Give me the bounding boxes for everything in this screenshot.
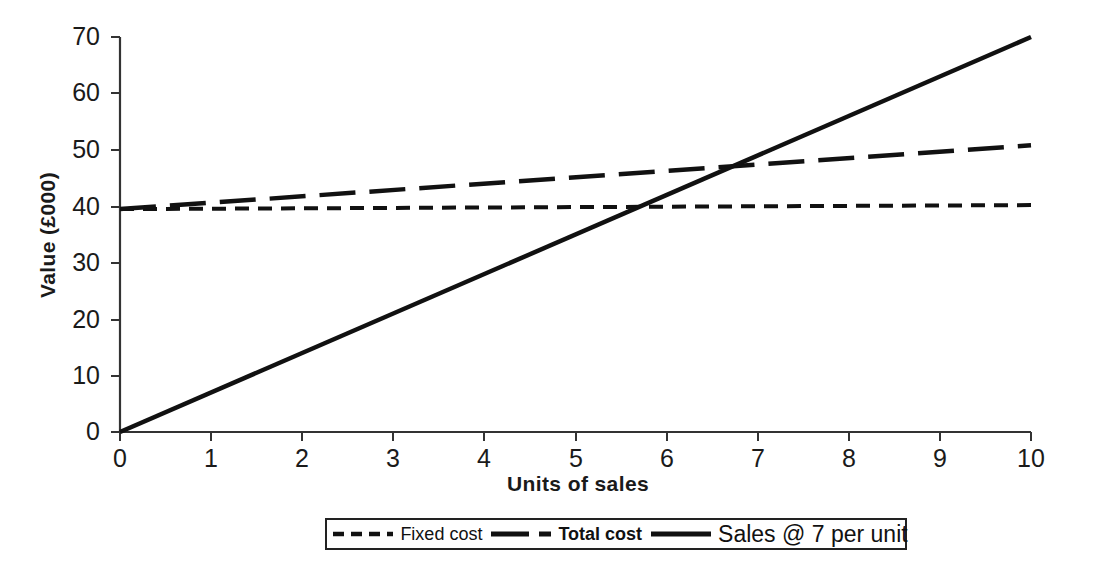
y-tick-label: 60	[72, 78, 100, 106]
y-axis-title: Value (£000)	[36, 172, 59, 298]
line-chart-plot: 70 60 50 40 30 20 10 0 0 1 2 3 4 5 6 7 8…	[0, 0, 1094, 581]
series-line-sales	[120, 37, 1031, 432]
legend-label-fixed-cost: Fixed cost	[400, 525, 482, 543]
series-line-fixed-cost	[120, 205, 1031, 209]
legend-label-sales: Sales @ 7 per unit	[718, 523, 908, 546]
legend-entry-sales: Sales @ 7 per unit	[642, 523, 908, 546]
y-tick-label: 10	[72, 361, 100, 389]
x-tick-label: 6	[660, 444, 674, 472]
long-dash-line-icon	[490, 527, 552, 541]
y-tick-label: 20	[72, 305, 100, 333]
x-axis-ticks	[120, 432, 1031, 441]
y-axis-ticks	[111, 37, 120, 432]
y-axis-tick-labels: 70 60 50 40 30 20 10 0	[72, 22, 100, 445]
x-tick-label: 0	[113, 444, 127, 472]
x-axis-title: Units of sales	[507, 472, 649, 495]
y-tick-label: 70	[72, 22, 100, 50]
x-axis-tick-labels: 0 1 2 3 4 5 6 7 8 9 10	[113, 444, 1045, 472]
legend-entry-fixed-cost: Fixed cost	[324, 525, 482, 543]
legend-label-total-cost: Total cost	[558, 525, 642, 543]
chart-container: 70 60 50 40 30 20 10 0 0 1 2 3 4 5 6 7 8…	[0, 0, 1094, 581]
x-tick-label: 1	[204, 444, 218, 472]
x-tick-label: 9	[933, 444, 947, 472]
x-tick-label: 8	[842, 444, 856, 472]
y-tick-label: 30	[72, 248, 100, 276]
solid-line-icon	[650, 527, 712, 541]
x-tick-label: 7	[751, 444, 765, 472]
x-tick-label: 4	[477, 444, 491, 472]
x-tick-label: 2	[295, 444, 309, 472]
x-tick-label: 3	[386, 444, 400, 472]
x-tick-label: 10	[1017, 444, 1045, 472]
x-tick-label: 5	[569, 444, 583, 472]
y-tick-label: 50	[72, 135, 100, 163]
short-dash-line-icon	[332, 527, 394, 541]
y-tick-label: 40	[72, 192, 100, 220]
y-tick-label: 0	[86, 417, 100, 445]
chart-legend: Fixed cost Total cost Sales @ 7 per unit	[325, 518, 907, 550]
legend-entry-total-cost: Total cost	[482, 525, 642, 543]
series-line-total-cost	[120, 145, 1031, 209]
